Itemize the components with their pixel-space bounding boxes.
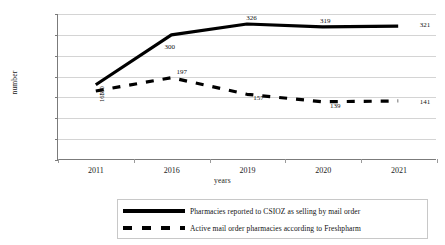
data-label: 319	[320, 17, 331, 24]
x-tick-label: 2016	[142, 166, 202, 175]
legend-item-0: Pharmacies reported to CSIOZ as selling …	[118, 203, 427, 219]
chart-legend: Pharmacies reported to CSIOZ as selling …	[117, 199, 428, 239]
data-label: 165	[99, 92, 106, 102]
x-tick-label: 2011	[66, 166, 126, 175]
y-axis-title: number	[10, 53, 19, 113]
data-label: 139	[330, 103, 341, 110]
legend-key-solid-icon	[118, 209, 190, 212]
x-tick-label: 2019	[218, 166, 278, 175]
data-label: 300	[164, 43, 175, 50]
legend-label-0: Pharmacies reported to CSIOZ as selling …	[190, 207, 360, 216]
data-label: 141	[420, 99, 431, 106]
data-label: 321	[420, 22, 431, 29]
x-tick-mark	[437, 159, 438, 163]
x-tick-label: 2021	[369, 166, 429, 175]
x-tick-label: 2020	[293, 166, 353, 175]
plot-area: 050100150200250300350 201120162019202020…	[57, 14, 436, 160]
legend-key-dashed-icon	[118, 226, 190, 229]
legend-label-1: Active mail order pharmacies according t…	[190, 224, 361, 233]
data-label: 326	[246, 15, 257, 22]
legend-item-1: Active mail order pharmacies according t…	[118, 220, 427, 236]
line-chart: number 050100150200250300350 20112016201…	[0, 0, 445, 245]
data-label: 157	[253, 94, 264, 101]
data-labels: 180300326319321165197157139141	[58, 14, 436, 159]
x-axis-title: years	[0, 176, 445, 185]
data-label: 197	[176, 68, 187, 75]
